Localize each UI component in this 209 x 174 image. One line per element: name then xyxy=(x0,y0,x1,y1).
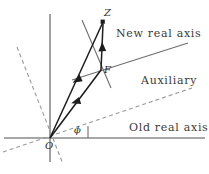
auxiliary-axis-line xyxy=(3,88,192,152)
origin-label: O xyxy=(45,140,53,151)
f-cross-line xyxy=(82,20,111,88)
new-real-axis-label: New real axis xyxy=(116,27,201,40)
vector-z-arrowhead xyxy=(73,75,83,83)
auxiliary-label: Auxiliary xyxy=(140,74,197,87)
point-z-marker xyxy=(101,20,105,24)
figure-container: Z F O ϕ New real axis Auxiliary Old real… xyxy=(0,0,209,174)
vector-fz-arrowhead xyxy=(98,42,106,52)
rotation-diagram: Z F O ϕ New real axis Auxiliary Old real… xyxy=(0,0,209,174)
steep-dashed-line xyxy=(17,47,63,164)
angle-phi-label: ϕ xyxy=(74,124,81,135)
old-real-axis-label: Old real axis xyxy=(129,121,208,134)
point-z-label: Z xyxy=(103,7,112,18)
point-f-label: F xyxy=(103,64,112,75)
